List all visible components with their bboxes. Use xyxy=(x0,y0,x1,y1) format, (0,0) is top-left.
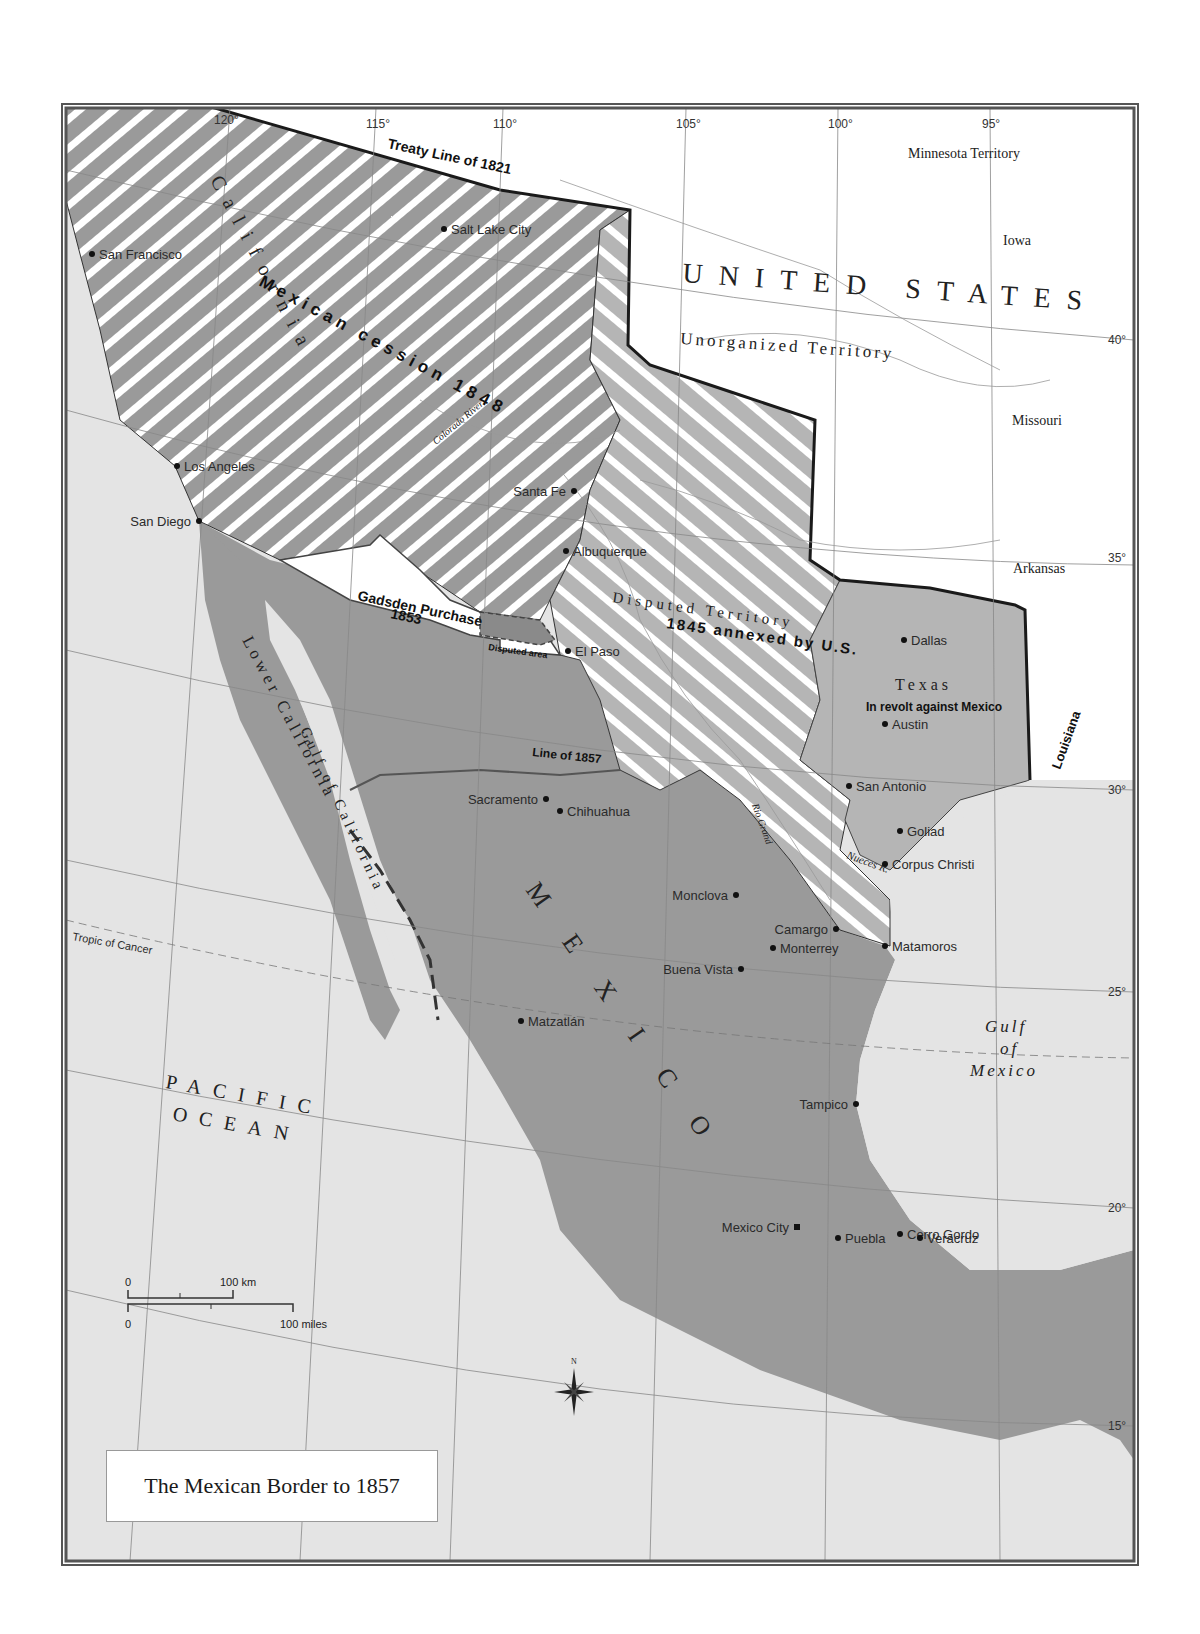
scale-km-zero: 0 xyxy=(125,1276,131,1288)
svg-text:40°: 40° xyxy=(1108,333,1126,347)
city-label: Los Angeles xyxy=(184,459,255,474)
svg-text:20°: 20° xyxy=(1108,1201,1126,1215)
city-dot-icon xyxy=(901,637,907,643)
city-dot-icon xyxy=(174,463,180,469)
city-marker: Chihuahua xyxy=(557,804,631,819)
svg-text:30°: 30° xyxy=(1108,783,1126,797)
svg-text:110°: 110° xyxy=(493,117,517,131)
label-gulf-of-mexico-2: of xyxy=(1000,1039,1019,1058)
city-label: Tampico xyxy=(800,1097,848,1112)
label-texas: Texas xyxy=(895,676,952,693)
city-dot-icon xyxy=(565,648,571,654)
city-dot-icon xyxy=(846,783,852,789)
svg-text:N: N xyxy=(571,1357,577,1366)
label-gulf-of-mexico-3: Mexico xyxy=(969,1061,1038,1080)
city-marker: Veracruz xyxy=(917,1231,978,1246)
city-dot-icon xyxy=(441,226,447,232)
city-label: Austin xyxy=(892,717,928,732)
city-label: Matamoros xyxy=(892,939,958,954)
city-dot-icon xyxy=(518,1018,524,1024)
city-dot-icon xyxy=(882,943,888,949)
city-marker: Matamoros xyxy=(882,939,958,954)
scale-mi-label: 100 miles xyxy=(280,1318,327,1330)
city-label: Monclova xyxy=(672,888,728,903)
city-marker: Mexico City xyxy=(722,1220,800,1235)
svg-text:35°: 35° xyxy=(1108,551,1126,565)
scale-mi-zero: 0 xyxy=(125,1318,131,1330)
city-dot-icon xyxy=(794,1224,800,1230)
city-dot-icon xyxy=(738,966,744,972)
city-label: Goliad xyxy=(907,824,945,839)
svg-text:25°: 25° xyxy=(1108,985,1126,999)
city-label: Corpus Christi xyxy=(892,857,974,872)
label-arkansas: Arkansas xyxy=(1013,561,1065,576)
city-label: Mexico City xyxy=(722,1220,790,1235)
svg-text:100°: 100° xyxy=(828,117,853,131)
city-label: Camargo xyxy=(775,922,828,937)
city-marker: Corpus Christi xyxy=(882,857,974,872)
city-marker: Sacramento xyxy=(468,792,549,807)
city-label: Dallas xyxy=(911,633,948,648)
city-dot-icon xyxy=(835,1235,841,1241)
city-dot-icon xyxy=(557,808,563,814)
city-label: Matzatlán xyxy=(528,1014,584,1029)
svg-text:120°: 120° xyxy=(214,113,239,127)
city-label: El Paso xyxy=(575,644,620,659)
city-dot-icon xyxy=(770,945,776,951)
city-dot-icon xyxy=(917,1235,923,1241)
city-dot-icon xyxy=(571,488,577,494)
city-marker: San Antonio xyxy=(846,779,926,794)
city-label: San Diego xyxy=(130,514,191,529)
city-label: Albuquerque xyxy=(573,544,647,559)
label-missouri: Missouri xyxy=(1012,413,1062,428)
city-dot-icon xyxy=(196,518,202,524)
label-texas-note: In revolt against Mexico xyxy=(866,700,1002,714)
label-minnesota-territory: Minnesota Territory xyxy=(908,146,1020,161)
city-dot-icon xyxy=(733,892,739,898)
city-dot-icon xyxy=(833,926,839,932)
city-label: Salt Lake City xyxy=(451,222,532,237)
city-dot-icon xyxy=(563,548,569,554)
city-label: Buena Vista xyxy=(663,962,734,977)
city-label: Veracruz xyxy=(927,1231,978,1246)
city-marker: Buena Vista xyxy=(663,962,744,977)
scale-km-label: 100 km xyxy=(220,1276,256,1288)
city-dot-icon xyxy=(897,1231,903,1237)
svg-text:105°: 105° xyxy=(676,117,701,131)
map-canvas: 120° 115° 110° 105° 100° 95° 40° 35° 30°… xyxy=(0,0,1200,1634)
map-title-box: The Mexican Border to 1857 xyxy=(106,1450,438,1522)
svg-text:115°: 115° xyxy=(366,117,390,131)
city-label: Puebla xyxy=(845,1231,886,1246)
city-label: Monterrey xyxy=(780,941,839,956)
city-marker: Matzatlán xyxy=(518,1014,584,1029)
svg-text:15°: 15° xyxy=(1108,1419,1126,1433)
scale-bar: 0 100 km 0 100 miles xyxy=(125,1276,345,1356)
city-dot-icon xyxy=(543,796,549,802)
city-marker: Albuquerque xyxy=(563,544,647,559)
city-label: San Francisco xyxy=(99,247,182,262)
city-marker: Salt Lake City xyxy=(441,222,532,237)
city-marker: Monterrey xyxy=(770,941,839,956)
city-marker: San Francisco xyxy=(89,247,182,262)
svg-text:95°: 95° xyxy=(982,117,1000,131)
city-label: Chihuahua xyxy=(567,804,631,819)
city-dot-icon xyxy=(882,861,888,867)
city-label: Santa Fe xyxy=(513,484,566,499)
city-label: San Antonio xyxy=(856,779,926,794)
label-iowa: Iowa xyxy=(1003,233,1032,248)
city-dot-icon xyxy=(853,1101,859,1107)
map-title: The Mexican Border to 1857 xyxy=(144,1473,399,1499)
label-gulf-of-mexico-1: Gulf xyxy=(985,1017,1027,1036)
city-dot-icon xyxy=(882,721,888,727)
city-dot-icon xyxy=(897,828,903,834)
city-label: Sacramento xyxy=(468,792,538,807)
city-marker: Los Angeles xyxy=(174,459,255,474)
city-dot-icon xyxy=(89,251,95,257)
